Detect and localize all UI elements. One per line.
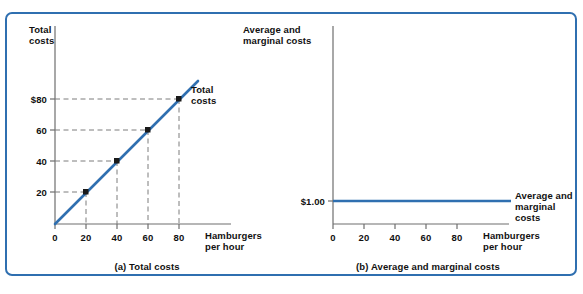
panel-average-marginal-costs: Average and marginal costs $1.00 0 20 40… bbox=[285, 14, 579, 278]
x-tick-label-20-b: 20 bbox=[353, 232, 375, 243]
data-point-60 bbox=[145, 127, 151, 133]
y-tick-label-80-a: $80 bbox=[11, 94, 47, 105]
data-point-20 bbox=[83, 189, 89, 195]
x-tick-label-40-a: 40 bbox=[106, 232, 128, 243]
x-tick-label-80-b: 80 bbox=[446, 232, 468, 243]
curve-label-amc-line2: marginal costs bbox=[515, 201, 579, 223]
x-axis-title-b-line1: Hamburgers bbox=[483, 230, 540, 241]
curve-label-total-costs-line2: costs bbox=[191, 95, 216, 106]
x-axis-title-b-line2: per hour bbox=[483, 241, 540, 252]
x-axis-title-a-line1: Hamburgers bbox=[205, 230, 262, 241]
x-tick-label-40-b: 40 bbox=[384, 232, 406, 243]
y-axis-title-a-line2: costs bbox=[29, 35, 54, 46]
panel-b-caption: (b) Average and marginal costs bbox=[313, 261, 543, 272]
data-point-80 bbox=[176, 96, 182, 102]
x-tick-label-60-a: 60 bbox=[137, 232, 159, 243]
x-tick-label-80-a: 80 bbox=[168, 232, 190, 243]
y-tick-label-20-a: 20 bbox=[11, 187, 47, 198]
y-axis-title-a-line1: Total bbox=[29, 24, 54, 35]
y-axis-title-b-line2: marginal costs bbox=[243, 35, 331, 46]
y-tick-label-60-a: 60 bbox=[11, 125, 47, 136]
y-axis-title-b: Average and marginal costs bbox=[243, 24, 331, 46]
panel-a-caption: (a) Total costs bbox=[57, 261, 237, 272]
x-axis-title-b: Hamburgers per hour bbox=[483, 230, 540, 252]
y-tick-label-40-a: 40 bbox=[11, 156, 47, 167]
y-axis-title-a: Total costs bbox=[29, 24, 54, 46]
curve-label-total-costs: Total costs bbox=[191, 84, 216, 106]
x-axis-title-a: Hamburgers per hour bbox=[205, 230, 262, 252]
total-costs-line bbox=[55, 81, 198, 224]
x-tick-label-20-a: 20 bbox=[75, 232, 97, 243]
figure-frame: Total costs $80 60 40 20 0 20 40 60 80 H… bbox=[5, 12, 577, 276]
y-tick-label-1.00-b: $1.00 bbox=[283, 196, 325, 207]
curve-label-total-costs-line1: Total bbox=[191, 84, 216, 95]
x-tick-label-0-b: 0 bbox=[322, 232, 344, 243]
curve-label-average-marginal-costs: Average and marginal costs bbox=[515, 190, 579, 223]
curve-label-amc-line1: Average and bbox=[515, 190, 579, 201]
x-axis-title-a-line2: per hour bbox=[205, 241, 262, 252]
data-point-40 bbox=[114, 158, 120, 164]
x-tick-label-0-a: 0 bbox=[44, 232, 66, 243]
y-axis-title-b-line1: Average and bbox=[243, 24, 331, 35]
panel-total-costs: Total costs $80 60 40 20 0 20 40 60 80 H… bbox=[7, 14, 297, 278]
x-tick-label-60-b: 60 bbox=[415, 232, 437, 243]
